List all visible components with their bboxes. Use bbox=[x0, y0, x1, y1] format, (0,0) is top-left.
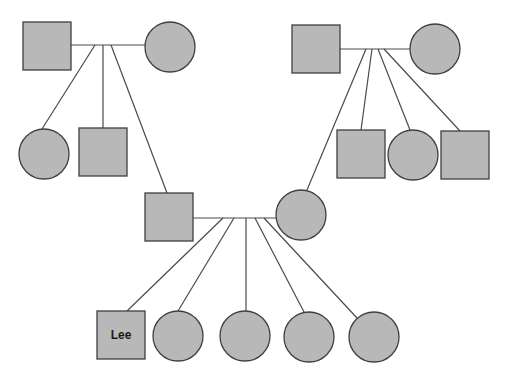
grandmother-paternal-circle bbox=[145, 22, 195, 72]
maternal-aunt-circle bbox=[388, 130, 438, 180]
maternal-uncle-2-square bbox=[441, 131, 489, 179]
mother-circle bbox=[276, 190, 326, 240]
father-square bbox=[145, 193, 193, 241]
grandfather-paternal-square bbox=[23, 22, 71, 70]
grandmother-maternal-circle bbox=[410, 24, 460, 74]
pedigree-diagram: Lee bbox=[0, 0, 509, 387]
sister-3-circle bbox=[284, 312, 334, 362]
paternal-aunt-circle bbox=[19, 129, 69, 179]
connector-lines bbox=[42, 45, 460, 318]
right-descent-line-daughter bbox=[378, 49, 410, 130]
sister-1-circle bbox=[153, 311, 203, 361]
sister-2-circle bbox=[220, 311, 270, 361]
grandfather-maternal-square bbox=[292, 25, 340, 73]
maternal-uncle-1-square bbox=[337, 130, 385, 178]
individuals bbox=[19, 22, 489, 362]
proband-label: Lee bbox=[111, 328, 132, 342]
sister-4-circle bbox=[349, 312, 399, 362]
right-descent-line-son-1 bbox=[361, 49, 372, 130]
paternal-uncle-square bbox=[79, 128, 127, 176]
